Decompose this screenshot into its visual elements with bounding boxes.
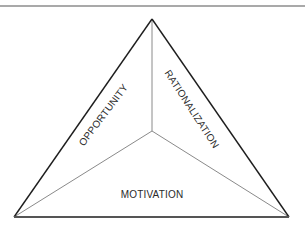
label-rationalization: RATIONALIZATION	[163, 68, 222, 150]
triangle-right-side	[152, 19, 289, 217]
fraud-triangle-diagram: OPPORTUNITY RATIONALIZATION MOTIVATION	[0, 0, 305, 236]
label-motivation: MOTIVATION	[121, 189, 184, 200]
triangle-left-side	[14, 19, 152, 217]
